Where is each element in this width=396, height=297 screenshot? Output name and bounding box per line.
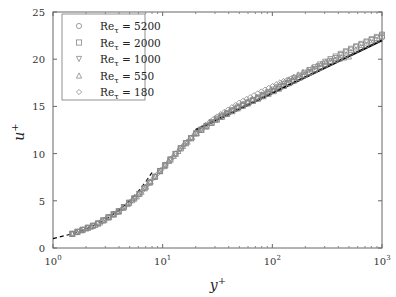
y-tick-label: 5 <box>39 196 45 207</box>
y-tick-label: 0 <box>39 243 45 254</box>
y-tick-label: 20 <box>32 54 45 65</box>
x-tick-label: 100 <box>44 254 61 267</box>
chart: 0510152025100101102103 y+ u+ Reτ = 5200R… <box>0 0 396 297</box>
y-axis-label: u+ <box>9 123 27 140</box>
viscous-sublayer-line <box>53 172 152 238</box>
x-tick-label: 103 <box>373 254 390 267</box>
x-tick-label: 101 <box>154 254 171 267</box>
legend: Reτ = 5200Reτ = 2000Reτ = 1000Reτ = 550R… <box>62 14 161 101</box>
y-tick-label: 10 <box>32 149 45 160</box>
x-axis-label: y+ <box>209 275 226 293</box>
y-tick-label: 15 <box>32 101 45 112</box>
y-tick-label: 25 <box>32 7 45 18</box>
x-tick-label: 102 <box>264 254 281 267</box>
